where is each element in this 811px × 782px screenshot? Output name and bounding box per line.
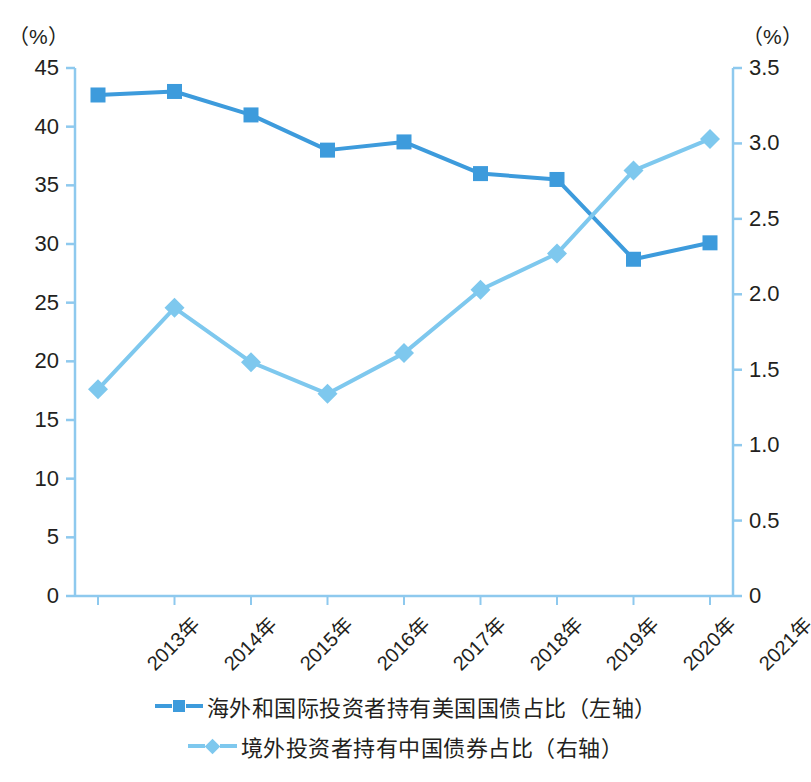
legend-line-icon: [220, 744, 237, 748]
left-axis-tick-label: 20: [0, 350, 59, 372]
data-point-square: [244, 107, 259, 122]
legend-line-icon: [155, 704, 172, 708]
data-point-square: [397, 134, 412, 149]
data-point-square: [473, 166, 488, 181]
left-axis-tick-label: 30: [0, 233, 59, 255]
data-point-square: [91, 87, 106, 102]
left-axis-tick-label: 15: [0, 409, 59, 431]
data-point-square: [320, 143, 335, 158]
right-axis-tick-label: 0: [749, 585, 761, 607]
left-axis-tick-label: 40: [0, 116, 59, 138]
chart-container: （%） （%） 454035302520151050 3.53.02.52.01…: [0, 0, 811, 782]
legend-label-series-1: 海外和国际投资者持有美国国债占比（左轴）: [207, 690, 657, 722]
square-marker-icon: [173, 700, 185, 712]
left-axis-tick-label: 10: [0, 468, 59, 490]
right-axis-tick-label: 1.0: [749, 434, 780, 456]
data-point-diamond: [700, 129, 720, 149]
right-axis-tick-label: 1.5: [749, 359, 780, 381]
data-point-square: [703, 235, 718, 250]
left-axis-tick-label: 0: [0, 585, 59, 607]
diamond-marker-icon: [204, 738, 220, 754]
data-point-square: [626, 252, 641, 267]
legend-line-icon: [188, 744, 205, 748]
legend-item-series-2[interactable]: 境外投资者持有中国债券占比（右轴）: [0, 726, 811, 766]
right-axis-tick-label: 3.5: [749, 57, 780, 79]
legend-line-icon: [186, 704, 203, 708]
legend-label-series-2: 境外投资者持有中国债券占比（右轴）: [241, 730, 624, 762]
legend-item-series-1[interactable]: 海外和国际投资者持有美国国债占比（左轴）: [0, 686, 811, 726]
left-axis-tick-label: 45: [0, 57, 59, 79]
data-point-square: [167, 84, 182, 99]
left-axis-tick-label: 5: [0, 526, 59, 548]
legend-key-series-1: [155, 700, 203, 712]
series-line-1: [98, 91, 710, 259]
data-point-diamond: [318, 384, 338, 404]
right-axis-tick-label: 3.0: [749, 132, 780, 154]
right-axis-tick-label: 2.5: [749, 208, 780, 230]
chart-legend: 海外和国际投资者持有美国国债占比（左轴） 境外投资者持有中国债券占比（右轴）: [0, 686, 811, 766]
data-point-square: [550, 172, 565, 187]
left-axis-tick-label: 25: [0, 292, 59, 314]
legend-key-series-2: [188, 741, 237, 752]
left-axis-tick-label: 35: [0, 174, 59, 196]
right-axis-tick-label: 2.0: [749, 283, 780, 305]
right-axis-tick-label: 0.5: [749, 510, 780, 532]
